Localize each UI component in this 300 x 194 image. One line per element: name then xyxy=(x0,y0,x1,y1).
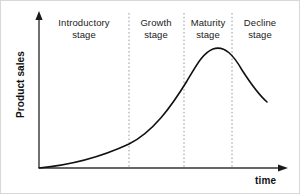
x-axis xyxy=(39,164,288,171)
x-axis-label: time xyxy=(255,175,276,186)
product-sales-curve xyxy=(39,48,267,168)
product-life-cycle-diagram: Product sales time Introductory stage Gr… xyxy=(0,0,300,194)
y-axis-label: Product sales xyxy=(15,42,26,128)
y-axis xyxy=(35,11,42,168)
diagram-canvas xyxy=(1,1,300,194)
y-axis-arrowhead xyxy=(35,11,42,20)
x-axis-arrowhead xyxy=(278,164,288,171)
